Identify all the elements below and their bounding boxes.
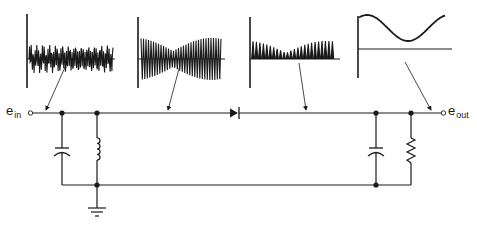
junction-dots bbox=[59, 110, 413, 187]
waveform-rectified-panel bbox=[250, 17, 340, 88]
diode-icon bbox=[230, 107, 239, 119]
output-label: eout bbox=[448, 104, 469, 120]
resistor-icon bbox=[407, 138, 415, 163]
input-label: ein bbox=[6, 104, 21, 120]
input-terminal bbox=[28, 111, 32, 115]
pointer-arrows bbox=[46, 62, 431, 110]
waveform-input-panel bbox=[27, 14, 115, 88]
am-detector-circuit-diagram bbox=[0, 0, 477, 227]
waveform-output-panel bbox=[358, 15, 452, 78]
output-terminal bbox=[441, 111, 445, 115]
circuit-wiring bbox=[33, 113, 441, 208]
ground-icon bbox=[88, 208, 106, 216]
inductor-icon bbox=[97, 138, 100, 160]
waveform-tuned-panel bbox=[138, 17, 225, 88]
